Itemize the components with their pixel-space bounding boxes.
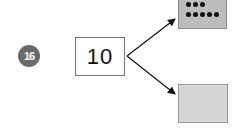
dot-icon	[186, 2, 191, 7]
dot-icon	[207, 12, 212, 17]
top-part-box	[178, 0, 227, 29]
dot-icon	[193, 12, 198, 17]
dot-icon	[214, 12, 219, 17]
arrow-down-icon	[127, 56, 175, 94]
bottom-part-answer-box[interactable]	[178, 84, 228, 123]
dot-icon	[193, 2, 198, 7]
dot-icon	[200, 2, 205, 7]
dot-icon	[186, 12, 191, 17]
arrow-up-icon	[127, 19, 175, 56]
dot-icon	[200, 12, 205, 17]
